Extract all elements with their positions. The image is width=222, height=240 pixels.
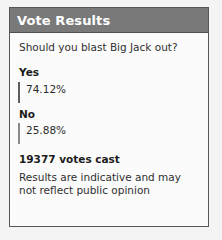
card-footer: 19377 votes cast Results are indicative … — [10, 154, 208, 198]
poll-question: Should you blast Big Jack out? — [19, 41, 200, 54]
bar-track-no — [18, 124, 20, 137]
vote-results-card: Vote Results Should you blast Big Jack o… — [9, 7, 209, 227]
votes-cast-count: 19377 votes cast — [19, 154, 200, 166]
bar-row-no: 25.88% — [18, 124, 200, 137]
poll-option-no: No 25.88% — [18, 109, 200, 138]
option-label-no: No — [19, 109, 200, 121]
poll-option-yes: Yes 74.12% — [18, 67, 200, 96]
percent-label-no: 25.88% — [26, 125, 66, 136]
page-title: Vote Results — [17, 14, 110, 27]
bar-fill-no — [18, 123, 20, 144]
card-body: Should you blast Big Jack out? Yes 74.12… — [10, 33, 208, 137]
percent-label-yes: 74.12% — [26, 84, 66, 95]
option-label-yes: Yes — [19, 67, 200, 79]
bar-track-yes — [18, 83, 20, 96]
bar-row-yes: 74.12% — [18, 83, 200, 96]
results-disclaimer: Results are indicative and may not refle… — [19, 171, 199, 198]
bar-fill-yes — [18, 82, 20, 103]
card-header: Vote Results — [10, 8, 208, 33]
